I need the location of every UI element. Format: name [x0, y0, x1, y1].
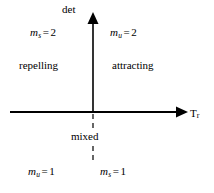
label-ms-top-equals: = — [41, 26, 50, 38]
label-ms-bottom-base: m — [100, 165, 108, 177]
tr-axis-label-subscript: r — [197, 111, 200, 120]
region-label-mixed: mixed — [71, 131, 99, 142]
label-mu-top: mu=2 — [110, 27, 137, 40]
label-mu-bottom: mu=1 — [28, 166, 55, 179]
tr-axis-label: Tr — [190, 108, 200, 120]
region-label-attracting: attracting — [112, 60, 154, 71]
tr-axis-label-base: T — [190, 107, 197, 119]
label-ms-top: ms=2 — [30, 27, 56, 40]
label-mu-bottom-value: 1 — [49, 165, 55, 177]
label-ms-top-base: m — [30, 26, 38, 38]
label-ms-bottom: ms=1 — [100, 166, 126, 179]
vertical-axis-arrowhead — [88, 12, 99, 24]
label-ms-bottom-value: 1 — [120, 165, 126, 177]
label-mu-top-value: 2 — [131, 26, 137, 38]
det-axis-label: det — [62, 4, 75, 15]
label-ms-bottom-equals: = — [111, 165, 120, 177]
label-mu-top-base: m — [110, 26, 118, 38]
label-mu-bottom-base: m — [28, 165, 36, 177]
label-mu-top-equals: = — [122, 26, 131, 38]
horizontal-axis-arrowhead — [176, 107, 188, 118]
label-mu-bottom-equals: = — [40, 165, 49, 177]
label-ms-top-value: 2 — [50, 26, 56, 38]
det-axis-label-text: det — [62, 3, 75, 15]
trace-determinant-diagram: det Tr ms=2 mu=2 repelling attracting mi… — [0, 0, 214, 193]
region-label-repelling: repelling — [19, 60, 58, 71]
